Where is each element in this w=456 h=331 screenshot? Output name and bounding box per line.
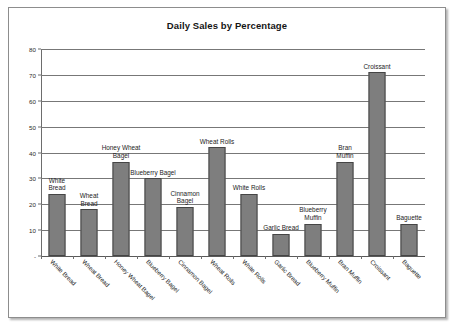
bar-slot: BlueberryMuffin xyxy=(297,49,329,256)
bar-slot: Garlic Bread xyxy=(265,49,297,256)
bar-label-line: Wheat Rolls xyxy=(200,138,234,146)
bar[interactable] xyxy=(177,207,194,256)
bar-slot: Wheat Rolls xyxy=(201,49,233,256)
bar[interactable] xyxy=(145,178,162,256)
bar-label-line: Muffin xyxy=(299,214,326,222)
x-category-label: Baguette xyxy=(401,258,423,280)
bar-label-line: Muffin xyxy=(336,152,353,160)
y-tick-label: 80 xyxy=(29,46,36,53)
bar-label-line: Bread xyxy=(80,200,98,208)
bar[interactable] xyxy=(81,209,98,256)
bar-label-line: Bread xyxy=(48,184,65,192)
bar-label-line: Bagel xyxy=(170,197,199,205)
bar-slot: Honey WheatBagel xyxy=(105,49,137,256)
bar[interactable] xyxy=(369,72,386,256)
bar[interactable] xyxy=(305,224,322,256)
y-tick-label: 10 xyxy=(29,227,36,234)
bar-label-line: Croissant xyxy=(364,63,391,71)
bar-label-line: Honey Wheat xyxy=(102,144,141,152)
bar-slot: BranMuffin xyxy=(329,49,361,256)
bar[interactable] xyxy=(49,194,66,256)
bar-value-label: Garlic Bread xyxy=(263,224,299,232)
x-category-label: Bran Muffin xyxy=(337,258,364,285)
bar[interactable] xyxy=(113,162,130,256)
bar-slot: Blueberry Bagel xyxy=(137,49,169,256)
x-category-label: Wheat Bread xyxy=(81,258,111,288)
bar-value-label: BlueberryMuffin xyxy=(299,206,326,221)
bar-label-line: Baguette xyxy=(396,214,422,222)
bar-value-label: WhiteBread xyxy=(48,177,65,192)
y-tick-label: 60 xyxy=(29,97,36,104)
bar-label-line: Bran xyxy=(336,144,353,152)
bar[interactable] xyxy=(337,162,354,256)
x-category-label: Garlic Bread xyxy=(273,258,302,287)
chart-title: Daily Sales by Percentage xyxy=(9,20,445,31)
x-axis-category-labels: White BreadWheat BreadHoney Wheat BagelB… xyxy=(41,258,425,316)
y-tick-label: 70 xyxy=(29,71,36,78)
plot-area: -1020304050607080 WhiteBreadWheatBreadHo… xyxy=(41,49,425,256)
bar-label-line: Bagel xyxy=(102,152,141,160)
bar-slot: White Rolls xyxy=(233,49,265,256)
bar-slot: WhiteBread xyxy=(41,49,73,256)
y-tick-label: 40 xyxy=(29,149,36,156)
bar-label-line: White xyxy=(48,177,65,185)
bar-label-line: Cinnamon xyxy=(170,190,199,198)
y-tick-label: 20 xyxy=(29,201,36,208)
bar-slot: CinnamonBagel xyxy=(169,49,201,256)
y-tick-label: - xyxy=(34,253,36,260)
y-tick-label: 50 xyxy=(29,123,36,130)
bar[interactable] xyxy=(273,234,290,256)
bar-label-line: Garlic Bread xyxy=(263,224,299,232)
y-tick-label: 30 xyxy=(29,175,36,182)
bar[interactable] xyxy=(401,224,418,256)
bar-slot: WheatBread xyxy=(73,49,105,256)
bar-value-label: BranMuffin xyxy=(336,144,353,159)
x-category-label: Wheat Rolls xyxy=(209,258,237,286)
x-category-label: Blueberry Muffin xyxy=(305,258,341,294)
bar[interactable] xyxy=(209,147,226,256)
bar-value-label: Honey WheatBagel xyxy=(102,144,141,159)
bar-value-label: Wheat Rolls xyxy=(200,138,234,146)
bar-value-label: CinnamonBagel xyxy=(170,190,199,205)
bar[interactable] xyxy=(241,194,258,256)
x-category-label: White Rolls xyxy=(241,258,268,285)
bar-label-line: Wheat xyxy=(80,192,98,200)
bar-slot: Croissant xyxy=(361,49,393,256)
chart-card: Daily Sales by Percentage -1020304050607… xyxy=(8,7,446,318)
bar-value-label: White Rolls xyxy=(233,184,265,192)
bar-label-line: Blueberry xyxy=(299,206,326,214)
x-category-label: Blueberry Bagel xyxy=(145,258,181,294)
bar-value-label: WheatBread xyxy=(80,192,98,207)
bar-value-label: Croissant xyxy=(364,63,391,71)
x-category-label: White Bread xyxy=(49,258,78,287)
x-category-label: Croissant xyxy=(369,258,392,281)
bar-label-line: White Rolls xyxy=(233,184,265,192)
bar-value-label: Baguette xyxy=(396,214,422,222)
bar-slot: Baguette xyxy=(393,49,425,256)
